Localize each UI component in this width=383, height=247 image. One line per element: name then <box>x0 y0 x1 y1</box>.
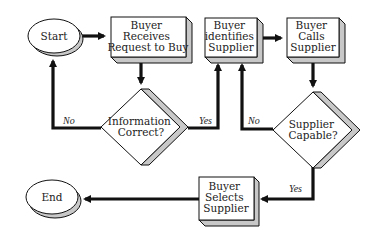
node-identifies: Buyer identifies Supplier <box>205 18 263 63</box>
capable-label: Supplier Capable? <box>288 118 338 141</box>
edge-info-no <box>53 61 101 128</box>
flowchart-canvas: No Yes No Yes Start Buyer Receives Reque… <box>0 0 383 247</box>
edge-label-capable-yes: Yes <box>289 183 302 194</box>
node-info-correct: Information Correct? <box>101 89 188 165</box>
node-capable: Supplier Capable? <box>273 92 360 168</box>
node-receives: Buyer Receives Request to Buy <box>107 17 192 63</box>
end-label: End <box>41 191 62 203</box>
selects-label: Buyer Selects Supplier <box>203 180 249 214</box>
node-end: End <box>26 180 81 218</box>
node-selects: Buyer Selects Supplier <box>199 177 259 226</box>
edge-label-info-yes: Yes <box>199 115 212 126</box>
edge-label-capable-no: No <box>247 115 260 126</box>
node-calls: Buyer Calls Supplier <box>287 18 345 63</box>
edge-label-info-no: No <box>62 115 75 126</box>
node-start: Start <box>28 19 83 56</box>
start-label: Start <box>41 30 69 42</box>
edge-capable-yes <box>262 166 313 199</box>
